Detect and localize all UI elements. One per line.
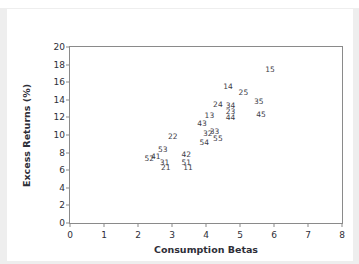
- y-axis-tick-label: 18: [54, 60, 70, 70]
- x-axis-title: Consumption Betas: [69, 244, 343, 255]
- figure-card: Excess Returns (%) 024681012141618200123…: [7, 9, 353, 261]
- scatter-point-label: 22: [168, 133, 178, 141]
- scatter-point-label: 15: [265, 66, 275, 74]
- y-axis-tick-label: 16: [54, 77, 70, 87]
- scatter-point-label: 13: [205, 112, 215, 120]
- scatter-point-label: 53: [158, 147, 168, 155]
- cropped-caption-text: [120, 0, 123, 1]
- y-axis-tick-label: 10: [54, 130, 70, 140]
- y-axis-tick-label: 8: [59, 148, 70, 158]
- y-axis-title: Excess Returns (%): [19, 46, 33, 224]
- scatter-point-label: 11: [183, 164, 193, 172]
- scatter-point-label: 35: [254, 98, 264, 106]
- x-axis-tick-label: 6: [271, 223, 277, 240]
- y-axis-tick-label: 4: [59, 183, 70, 193]
- y-axis-tick-label: 14: [54, 95, 70, 105]
- y-axis-tick-label: 6: [59, 165, 70, 175]
- scatter-point-label: 44: [226, 115, 236, 123]
- scatter-point-label: 25: [239, 89, 249, 97]
- scatter-point-label: 55: [213, 135, 223, 143]
- scatter-point-label: 21: [161, 164, 171, 172]
- scatter-point-label: 24: [213, 101, 223, 109]
- x-axis-tick-label: 3: [169, 223, 175, 240]
- x-axis-title-label: Consumption Betas: [154, 244, 258, 255]
- x-axis-tick-label: 4: [203, 223, 209, 240]
- scatter-point-label: 54: [200, 139, 210, 147]
- x-axis-tick-label: 7: [305, 223, 311, 240]
- scatter-point-label: 45: [256, 111, 266, 119]
- cropped-caption-strip: [0, 0, 359, 8]
- scatter-plot-area: 0246810121416182001234567852415331212242…: [69, 46, 343, 224]
- scatter-point-label: 43: [197, 120, 207, 128]
- y-axis-tick-label: 12: [54, 112, 70, 122]
- y-axis-title-label: Excess Returns (%): [21, 84, 32, 187]
- y-axis-tick-label: 2: [59, 200, 70, 210]
- x-axis-tick-label: 5: [237, 223, 243, 240]
- y-axis-tick-label: 20: [54, 42, 70, 52]
- x-axis-tick-label: 0: [67, 223, 73, 240]
- x-axis-tick-label: 1: [101, 223, 107, 240]
- scatter-point-label: 14: [223, 84, 233, 92]
- x-axis-tick-label: 2: [135, 223, 141, 240]
- x-axis-tick-label: 8: [339, 223, 345, 240]
